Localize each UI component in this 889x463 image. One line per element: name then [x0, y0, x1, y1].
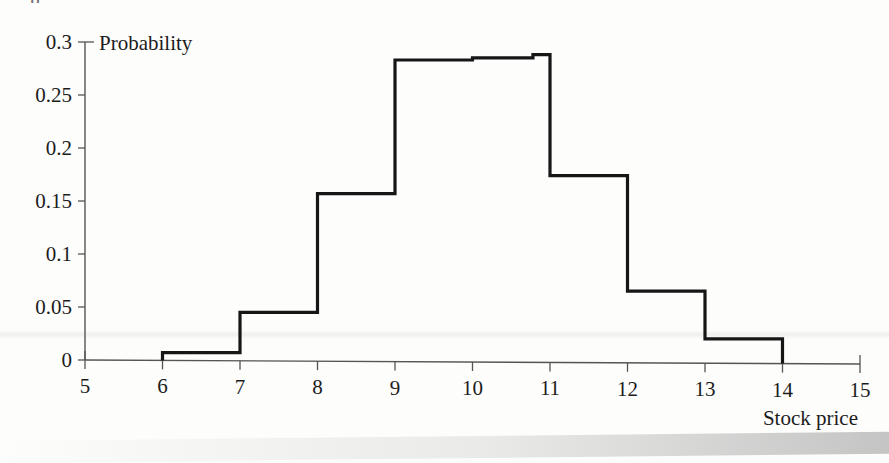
- x-axis-tick-label: 10: [462, 376, 483, 400]
- x-axis-tick-label: 9: [390, 376, 401, 400]
- y-axis-tick-label: 0.25: [35, 83, 72, 107]
- x-axis: 56789101112131415: [80, 351, 871, 402]
- chart-page: g 0.30.250.20.150.10.050 567891011121314…: [0, 0, 889, 463]
- y-axis: 0.30.250.20.150.10.050: [35, 30, 94, 372]
- y-axis-tick-label: 0.3: [46, 30, 72, 54]
- y-axis-tick-label: 0.05: [35, 295, 72, 319]
- x-axis-tick-label: 13: [695, 377, 716, 401]
- y-axis-tick-label: 0.2: [46, 136, 72, 160]
- x-axis-tick-label: 15: [850, 378, 871, 402]
- y-axis-tick-label: 0: [62, 348, 73, 372]
- x-axis-tick-label: 5: [80, 374, 91, 398]
- y-axis-title: Probability: [99, 31, 193, 55]
- x-axis-tick-label: 11: [540, 376, 560, 400]
- x-axis-tick-label: 14: [772, 378, 794, 402]
- histogram-outline: [163, 55, 783, 364]
- x-axis-tick-label: 8: [312, 375, 323, 399]
- y-axis-tick-label: 0.1: [46, 242, 72, 266]
- histogram-step-outline: [163, 55, 783, 364]
- x-axis-tick-label: 12: [617, 377, 638, 401]
- y-axis-tick-label: 0.15: [35, 189, 72, 213]
- x-axis-tick-label: 6: [157, 374, 168, 398]
- probability-histogram-chart: 0.30.250.20.150.10.050 56789101112131415…: [0, 0, 889, 463]
- x-axis-title: Stock price: [763, 406, 858, 430]
- x-axis-tick-label: 7: [235, 375, 246, 399]
- axis-titles: ProbabilityStock price: [99, 31, 858, 430]
